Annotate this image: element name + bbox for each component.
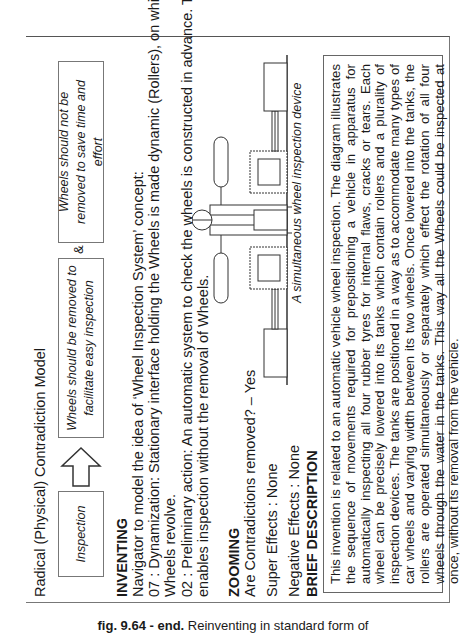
inventing-line: 07 : Dynamization: Stationary interface … (146, 0, 162, 597)
requirement-box-removed: Wheels should be removed to facilitate e… (58, 258, 104, 438)
diagram-caption: A simultaneous wheel inspection device (290, 83, 304, 304)
requirement-box-not-removed: Wheels should not be removed to save tim… (58, 61, 104, 243)
inventing-heading: INVENTING (114, 518, 130, 597)
inventing-line: Navigator to model the idea of ‘Wheel In… (130, 171, 146, 597)
right-arrow-icon (59, 446, 103, 488)
inventing-line: Wheels revolve. (162, 494, 178, 597)
zooming-heading: ZOOMING (226, 528, 242, 597)
negative-effects-line: Negative Effects : None (286, 445, 302, 597)
model-title: Radical (Physical) Contradiction Model (32, 348, 48, 597)
wheel-inspection-device-diagram (192, 55, 292, 385)
inspection-label: Inspection (73, 506, 90, 563)
requirement-not-removed-text: Wheels should not be removed to save tim… (56, 68, 107, 236)
brief-description-text: This invention is related to an automati… (328, 64, 461, 584)
rotated-page: Radical (Physical) Contradiction Model I… (26, 36, 450, 603)
requirement-removed-text: Wheels should be removed to facilitate e… (64, 265, 98, 431)
brief-description-box: This invention is related to an automati… (323, 55, 443, 593)
figure-caption-text: Reinventing in standard form of (184, 618, 368, 633)
ampersand: & (71, 245, 86, 254)
figure-label: fig. 9.64 - end. (98, 618, 185, 633)
brief-description-heading: BRIEF DESCRIPTION (304, 450, 320, 597)
contradictions-line: Are Contradictions removed? – Yes (242, 370, 258, 597)
inspection-box: Inspection (58, 491, 104, 577)
super-effects-line: Super Effects : None (264, 463, 280, 597)
figure-caption: fig. 9.64 - end. Reinventing in standard… (0, 618, 466, 633)
